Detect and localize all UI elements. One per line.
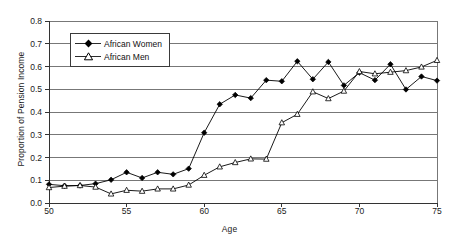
x-tick-label: 60 — [189, 206, 219, 216]
x-tick-label: 50 — [34, 206, 64, 216]
series-layer — [46, 57, 440, 196]
series-african-men — [46, 57, 440, 196]
legend-item-african-men: African Men — [75, 50, 162, 63]
x-tick-label: 75 — [422, 206, 452, 216]
series-african-women — [46, 59, 439, 189]
y-tick-label: 0.8 — [16, 16, 42, 26]
x-tick-label: 65 — [267, 206, 297, 216]
y-tick-label: 0.1 — [16, 175, 42, 185]
chart-figure: Proportion of Pension Income Age 0.00.10… — [0, 0, 459, 245]
y-tick-label: 0.2 — [16, 153, 42, 163]
y-tick-label: 0.7 — [16, 39, 42, 49]
x-tick-label: 70 — [344, 206, 374, 216]
y-tick-label: 0.6 — [16, 62, 42, 72]
legend-key-open-triangle-icon — [75, 51, 101, 62]
legend-label-african-women: African Women — [104, 39, 162, 49]
y-tick-label: 0.3 — [16, 130, 42, 140]
legend-item-african-women: African Women — [75, 37, 162, 50]
y-tick-label: 0.5 — [16, 84, 42, 94]
y-tick-label: 0.4 — [16, 107, 42, 117]
x-axis-tick-labels: 505560657075 — [0, 206, 459, 222]
legend-key-filled-diamond-icon — [75, 38, 101, 49]
chart-legend: African Women African Men — [70, 33, 170, 67]
x-tick-label: 55 — [112, 206, 142, 216]
legend-label-african-men: African Men — [104, 52, 149, 62]
x-axis-label: Age — [0, 224, 459, 234]
